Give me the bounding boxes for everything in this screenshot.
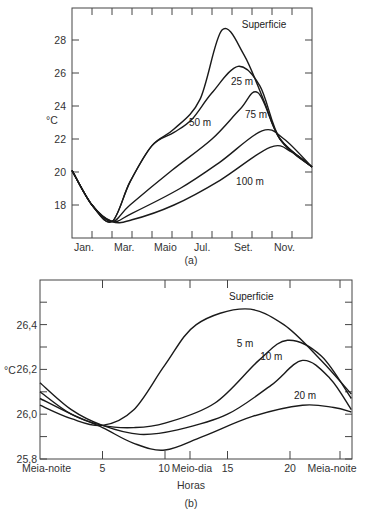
chart-b-plot-frame [40, 280, 352, 459]
chart-b-y-tick-label: 26,0 [17, 408, 38, 420]
chart-a-line-75-m [72, 130, 312, 222]
chart-b-y-axis-label: °C [4, 364, 16, 376]
chart-a-x-tick-labels: Jan.Mar.MaioJul.Set.Nov. [74, 241, 295, 253]
chart-b-ticks [40, 280, 352, 459]
chart-b-series [40, 309, 351, 450]
chart-a-temperature-by-month: 182022242628 Jan.Mar.MaioJul.Set.Nov. °C… [46, 8, 312, 266]
chart-b-line-20-m [40, 399, 351, 451]
chart-b-x-tick-label: Meia-noite [307, 462, 356, 474]
chart-b-line-superficie [40, 309, 351, 426]
chart-b-label-20-m: 20 m [294, 390, 316, 401]
chart-b-x-tick-label: 5 [100, 462, 106, 474]
chart-a-label-100-m: 100 m [236, 176, 264, 187]
chart-a-y-tick-label: 18 [54, 199, 66, 211]
chart-a-line-100-m [72, 146, 312, 223]
chart-a-label-50-m: 50 m [189, 117, 211, 128]
chart-a-y-axis-label: °C [46, 114, 58, 126]
chart-a-label-superficie: Superficie [242, 19, 287, 30]
chart-a-label-75-m: 75 m [245, 109, 267, 120]
chart-a-label-25-m: 25 m [231, 76, 253, 87]
chart-b-caption: (b) [185, 497, 198, 509]
chart-a-y-tick-label: 20 [54, 166, 66, 178]
chart-b-y-tick-label: 26,4 [17, 319, 38, 331]
chart-a-y-tick-label: 26 [54, 67, 66, 79]
chart-a-y-tick-label: 24 [54, 100, 66, 112]
chart-b-x-tick-label: 15 [222, 462, 234, 474]
chart-a-x-tick-label: Maio [154, 241, 177, 253]
chart-b-line-5-m [40, 340, 351, 428]
chart-a-caption: (a) [185, 254, 198, 266]
chart-b-y-tick-label: 26,2 [17, 363, 38, 375]
chart-a-x-tick-label: Nov. [274, 241, 295, 253]
chart-b-temperature-by-hour: 25,826,026,226,4 Meia-noite510Meio-dia15… [4, 280, 357, 509]
chart-b-label-5-m: 5 m [237, 338, 254, 349]
chart-b-x-tick-label: Meia-noite [22, 462, 71, 474]
chart-b-x-axis-label: Horas [177, 479, 205, 491]
chart-b-x-tick-labels: Meia-noite510Meio-dia1520Meia-noite [22, 462, 357, 474]
chart-b-y-tick-labels: 25,826,026,226,4 [17, 319, 38, 465]
chart-b-x-tick-label: 10 [158, 462, 170, 474]
chart-a-x-tick-label: Mar. [114, 241, 134, 253]
figure: 182022242628 Jan.Mar.MaioJul.Set.Nov. °C… [0, 0, 370, 514]
chart-a-y-tick-label: 28 [54, 34, 66, 46]
chart-a-line-25-m [72, 66, 312, 222]
chart-b-label-10-m: 10 m [260, 351, 282, 362]
chart-b-x-tick-label: Meio-dia [172, 462, 212, 474]
chart-b-label-superficie: Superficie [229, 291, 274, 302]
chart-a-y-tick-label: 22 [54, 133, 66, 145]
chart-a-x-tick-label: Jan. [74, 241, 94, 253]
chart-a-x-tick-label: Jul. [194, 241, 210, 253]
chart-a-x-tick-label: Set. [234, 241, 253, 253]
chart-b-x-tick-label: 20 [284, 462, 296, 474]
